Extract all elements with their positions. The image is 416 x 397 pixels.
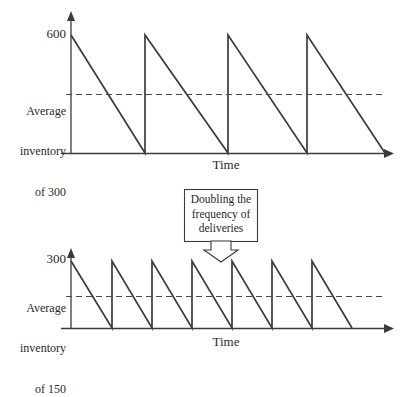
callout-line-1: Doubling the bbox=[185, 192, 257, 207]
bottom-chart-x-axis-arrow-icon bbox=[384, 324, 394, 333]
bottom-chart-x-axis-label: Time bbox=[196, 335, 256, 350]
bottom-chart-inventory-line bbox=[71, 261, 352, 328]
bottom-chart-peak-label: 300 bbox=[24, 252, 66, 267]
callout-line-2: frequency of bbox=[185, 207, 257, 222]
top-chart-y-axis-arrow-icon bbox=[67, 11, 75, 21]
bottom-chart bbox=[61, 248, 394, 333]
callout-text: Doubling the frequency of deliveries bbox=[185, 192, 257, 236]
top-chart-average-label-line-3: of 300 bbox=[0, 186, 66, 199]
callout-line-3: deliveries bbox=[185, 221, 257, 236]
top-chart-peak-label: 600 bbox=[24, 27, 66, 42]
top-chart-average-label-line-1: Average bbox=[0, 105, 66, 118]
bottom-chart-average-label-line-3: of 150 bbox=[0, 383, 66, 396]
bottom-chart-average-label-line-1: Average bbox=[0, 302, 66, 315]
top-chart-average-label: Average inventory of 300 bbox=[0, 78, 66, 226]
top-chart-average-label-line-2: inventory bbox=[0, 145, 66, 158]
bottom-chart-average-label-line-2: inventory bbox=[0, 342, 66, 355]
down-arrow-icon bbox=[204, 241, 238, 262]
top-chart-x-axis-arrow-icon bbox=[384, 149, 394, 158]
bottom-chart-average-label: Average inventory of 150 bbox=[0, 275, 66, 397]
top-chart-x-axis-label: Time bbox=[196, 158, 256, 173]
top-chart bbox=[61, 11, 394, 158]
bottom-chart-y-axis-arrow-icon bbox=[67, 248, 75, 258]
